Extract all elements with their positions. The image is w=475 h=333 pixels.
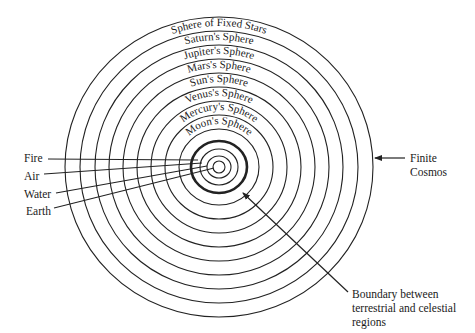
- sphere-labels: Sphere of Fixed StarsSaturn's SphereJupi…: [169, 16, 269, 138]
- boundary-label-line-2: terrestrial and celestial: [352, 301, 456, 315]
- water-label: Water: [24, 187, 51, 201]
- air-label: Air: [24, 169, 39, 183]
- finite-cosmos-label-line-1: Finite: [410, 151, 447, 165]
- fire-leader-line: [48, 159, 198, 160]
- geocentric-cosmos-diagram: Sphere of Fixed StarsSaturn's SphereJupi…: [0, 0, 475, 333]
- earth-leader-line: [54, 168, 214, 208]
- boundary-label: Boundary between terrestrial and celesti…: [352, 287, 456, 329]
- fire-label: Fire: [24, 151, 43, 165]
- boundary-arrow: [243, 193, 348, 292]
- boundary-label-line-3: regions: [352, 315, 456, 329]
- boundary-label-line-1: Boundary between: [352, 287, 456, 301]
- air-ring: [200, 149, 238, 185]
- earth-ring: [213, 161, 225, 173]
- finite-cosmos-label: Finite Cosmos: [410, 151, 447, 179]
- mercury-sphere-ring: [165, 115, 273, 219]
- water-ring: [207, 156, 231, 178]
- finite-cosmos-label-line-2: Cosmos: [410, 165, 447, 179]
- earth-label: Earth: [26, 204, 51, 218]
